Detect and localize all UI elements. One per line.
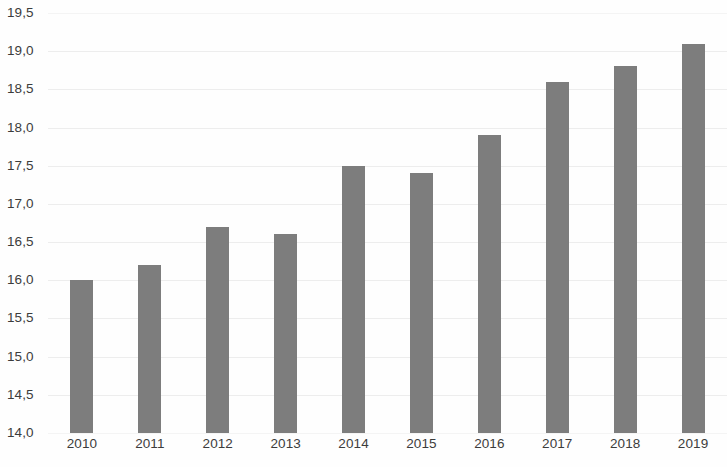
x-tick-label: 2010 [67,437,97,451]
y-tick-label: 19,0 [0,44,41,58]
x-tick-label: 2013 [270,437,300,451]
y-tick-label: 16,0 [0,273,41,287]
y-tick-label: 19,5 [0,6,41,20]
bar-2019 [682,44,705,433]
bar-2015 [410,173,433,433]
x-tick-label: 2016 [474,437,504,451]
y-tick-label: 18,0 [0,121,41,135]
x-tick-label: 2015 [406,437,436,451]
bar-2014 [342,166,365,433]
y-tick-label: 14,0 [0,426,41,440]
x-tick-label: 2012 [203,437,233,451]
plot-area [48,13,727,433]
x-tick-label: 2014 [338,437,368,451]
y-tick-label: 14,5 [0,388,41,402]
bar-2010 [70,280,93,433]
gridline [48,433,727,434]
x-tick-label: 2017 [542,437,572,451]
bar-2013 [274,234,297,433]
y-tick-label: 17,5 [0,159,41,173]
y-tick-label: 15,5 [0,311,41,325]
gridline [48,13,727,14]
bar-2012 [206,227,229,433]
bar-2016 [478,135,501,433]
y-tick-label: 15,0 [0,350,41,364]
gridline [48,51,727,52]
x-tick-label: 2019 [678,437,708,451]
y-axis: 19,519,018,518,017,517,016,516,015,515,0… [0,0,48,467]
y-tick-label: 18,5 [0,82,41,96]
bar-2018 [614,66,637,433]
bar-2011 [138,265,161,433]
y-tick-label: 17,0 [0,197,41,211]
x-tick-label: 2011 [135,437,164,451]
y-tick-label: 16,5 [0,235,41,249]
x-tick-label: 2018 [610,437,640,451]
bar-chart: 19,519,018,518,017,517,016,516,015,515,0… [0,0,727,467]
bar-2017 [546,82,569,433]
x-axis: 2010201120122013201420152016201720182019 [48,437,727,467]
